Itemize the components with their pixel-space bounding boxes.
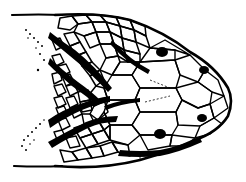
eye-lower	[154, 129, 166, 139]
nostril-lower	[197, 114, 207, 122]
lizard-head-drawing	[0, 0, 246, 182]
eye-upper	[156, 47, 168, 57]
lizard-head-illustration	[0, 0, 246, 182]
plate-dash-marks	[145, 80, 170, 102]
nostril-upper	[199, 66, 209, 74]
